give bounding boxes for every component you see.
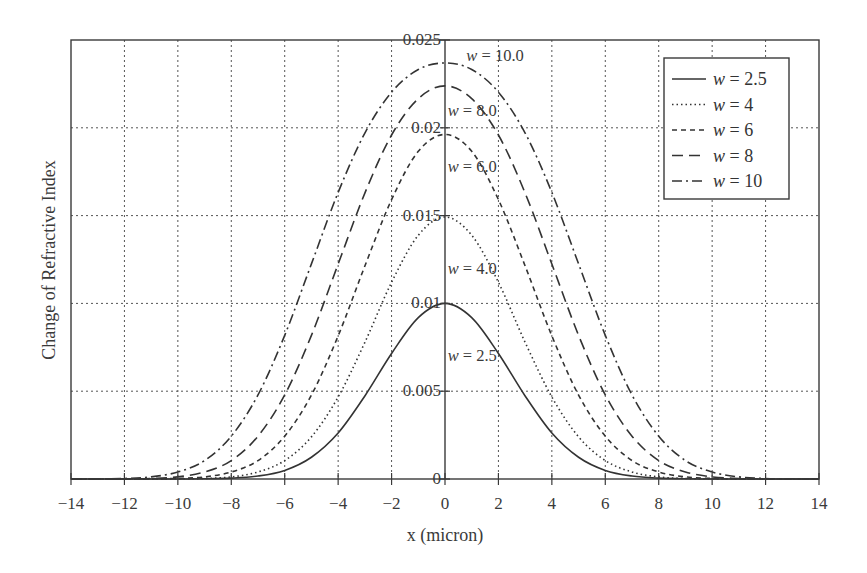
curve-annotation: w = 8.0 (448, 101, 497, 120)
x-tick-label: 14 (811, 494, 829, 513)
annotation-variable: w (448, 346, 459, 365)
curve-annotation: w = 6.0 (448, 157, 497, 176)
annotation-value: = 2.5 (459, 346, 497, 365)
x-tick-label: −14 (58, 494, 85, 513)
legend: w = 2.5w = 4w = 6w = 8w = 10 (664, 58, 789, 199)
annotation-variable: w (466, 46, 477, 65)
legend-value: = 8 (725, 146, 753, 166)
legend-value: = 2.5 (725, 69, 767, 89)
legend-label: w = 8 (713, 146, 753, 166)
annotation-variable: w (448, 101, 459, 120)
y-axis-label: Change of Refractive Index (39, 160, 59, 359)
curve-annotation: w = 2.5 (448, 346, 497, 365)
x-tick-label: −2 (383, 494, 401, 513)
curve-annotation: w = 4.0 (448, 259, 497, 278)
legend-variable: w (713, 120, 725, 140)
y-tick-label: 0.02 (411, 118, 441, 137)
y-tick-label: 0 (433, 469, 442, 488)
x-tick-label: −6 (276, 494, 294, 513)
x-tick-label: 12 (757, 494, 774, 513)
legend-label: w = 6 (713, 120, 753, 140)
x-tick-label: −12 (111, 494, 138, 513)
x-axis-label: x (micron) (407, 525, 483, 546)
refractive-index-chart: −14−12−10−8−6−4−202468101214 00.0050.010… (0, 0, 867, 573)
legend-variable: w (713, 69, 725, 89)
x-tick-label: 0 (441, 494, 450, 513)
annotation-variable: w (448, 157, 459, 176)
curve-annotation: w = 10.0 (466, 46, 523, 65)
annotation-value: = 10.0 (477, 46, 523, 65)
legend-variable: w (713, 95, 725, 115)
y-tick-label: 0.005 (403, 381, 441, 400)
x-tick-label: 4 (548, 494, 557, 513)
legend-label: w = 4 (713, 95, 753, 115)
x-tick-label: 8 (654, 494, 663, 513)
x-tick-label: −10 (165, 494, 192, 513)
legend-label: w = 2.5 (713, 69, 767, 89)
annotation-variable: w (448, 259, 459, 278)
legend-value: = 10 (725, 171, 762, 191)
annotation-value: = 8.0 (459, 101, 497, 120)
annotation-value: = 6.0 (459, 157, 497, 176)
annotation-value: = 4.0 (459, 259, 497, 278)
y-tick-label: 0.01 (411, 293, 441, 312)
x-tick-label: −8 (222, 494, 240, 513)
legend-value: = 6 (725, 120, 753, 140)
legend-label: w = 10 (713, 171, 762, 191)
legend-value: = 4 (725, 95, 753, 115)
x-tick-label: −4 (329, 494, 348, 513)
y-tick-label: 0.015 (403, 206, 441, 225)
x-tick-label: 10 (704, 494, 721, 513)
legend-variable: w (713, 146, 725, 166)
legend-variable: w (713, 171, 725, 191)
x-tick-label: 2 (494, 494, 503, 513)
y-tick-label: 0.025 (403, 30, 441, 49)
x-tick-label: 6 (601, 494, 610, 513)
